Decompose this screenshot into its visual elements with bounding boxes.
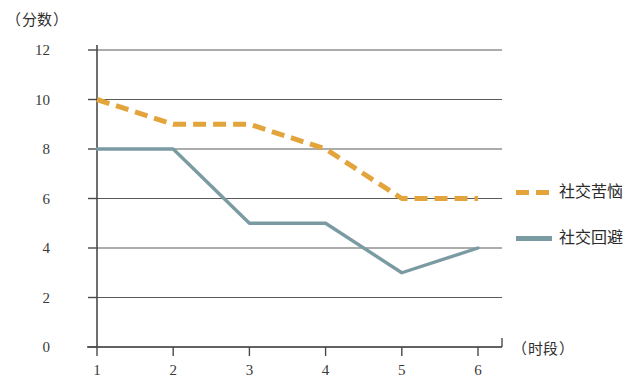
legend-item-2: 社交回避 <box>516 228 623 248</box>
line-chart: （分数） （时段） 024681012 123456 社交苦恼社交回避 <box>0 0 641 392</box>
legend-label: 社交回避 <box>559 230 623 246</box>
legend: 社交苦恼社交回避 <box>516 182 623 248</box>
series-lines <box>97 100 478 273</box>
legend-label: 社交苦恼 <box>559 184 623 200</box>
legend-swatch-dashed <box>516 190 552 195</box>
series-line-2 <box>97 149 478 273</box>
legend-item-1: 社交苦恼 <box>516 182 623 202</box>
legend-swatch-solid <box>516 236 552 241</box>
